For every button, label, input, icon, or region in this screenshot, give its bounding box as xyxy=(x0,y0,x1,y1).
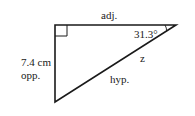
opposite-label: opp. xyxy=(21,69,41,81)
angle-arc xyxy=(165,25,167,31)
angle-label: 31.3° xyxy=(134,28,158,40)
hypotenuse-variable-label: z xyxy=(140,52,145,64)
adjacent-label: adj. xyxy=(101,9,117,21)
right-triangle xyxy=(55,25,176,102)
triangle-diagram: adj. 31.3° 7.4 cm opp. z hyp. xyxy=(0,0,195,116)
opposite-length-label: 7.4 cm xyxy=(21,56,51,68)
hypotenuse-label: hyp. xyxy=(110,73,130,85)
right-angle-marker xyxy=(55,25,67,36)
